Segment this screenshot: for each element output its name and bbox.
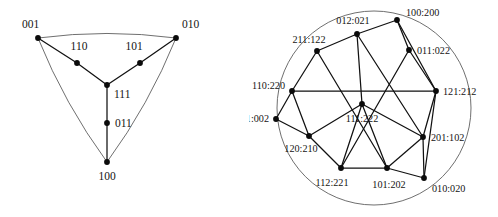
graph-edges — [38, 38, 176, 162]
node-label: 012:021 — [336, 15, 369, 26]
graph-edge — [357, 34, 362, 104]
graph-vertex[interactable] — [338, 165, 344, 171]
node-label: 110 — [71, 40, 88, 52]
node-label: 100:200 — [406, 7, 439, 18]
node-label: 110:220 — [252, 80, 285, 91]
graph-vertex[interactable] — [104, 159, 110, 165]
node-label: 010:020 — [432, 183, 465, 194]
panel-binary-triangle-graph: 001010110101111011100 — [0, 0, 249, 217]
graph-edge — [423, 91, 436, 137]
graph-edge — [387, 137, 423, 168]
graph-edge — [77, 63, 107, 85]
node-label: 011 — [115, 117, 132, 129]
node-label: 001:002 — [249, 113, 269, 124]
graph-vertex[interactable] — [433, 88, 439, 94]
node-label: 100 — [98, 170, 116, 182]
graph-vertex[interactable] — [421, 175, 427, 181]
node-label: 101:202 — [372, 179, 405, 190]
node-label: 201:102 — [431, 132, 464, 143]
node-label: 121:212 — [443, 86, 476, 97]
graph-vertex[interactable] — [394, 17, 400, 23]
node-label: 011:022 — [417, 45, 450, 56]
panel-ternary-wheel-graph: 100:200012:021211:122011:022110:220121:2… — [249, 0, 498, 217]
node-label: 211:122 — [292, 34, 325, 45]
ternary-wheel-graph-svg: 100:200012:021211:122011:022110:220121:2… — [249, 0, 498, 217]
graph-edge — [409, 50, 436, 91]
node-label: 101 — [125, 40, 143, 52]
binary-triangle-graph-svg: 001010110101111011100 — [0, 0, 249, 217]
node-label: 001 — [22, 18, 40, 30]
boundary-arc-0 — [38, 33, 176, 38]
graph-edge — [387, 168, 424, 178]
graph-vertex[interactable] — [104, 120, 110, 126]
graph-vertex[interactable] — [104, 82, 110, 88]
graph-vertex[interactable] — [74, 60, 80, 66]
graph-vertex[interactable] — [35, 35, 41, 41]
node-label: 111:222 — [346, 113, 379, 124]
graph-vertex[interactable] — [359, 101, 365, 107]
node-label: 120:210 — [284, 143, 317, 154]
graph-vertex[interactable] — [384, 165, 390, 171]
graph-vertex[interactable] — [420, 134, 426, 140]
node-label: 010 — [182, 18, 200, 30]
figure-container: 001010110101111011100 100:200012:021211:… — [0, 0, 498, 217]
graph-vertex[interactable] — [406, 47, 412, 53]
graph-node-labels: 100:200012:021211:122011:022110:220121:2… — [249, 7, 476, 194]
graph-vertex[interactable] — [173, 35, 179, 41]
graph-edge — [276, 91, 292, 119]
graph-edge — [107, 63, 140, 85]
graph-edge — [423, 137, 424, 178]
graph-vertex[interactable] — [314, 48, 320, 54]
node-label: 111 — [114, 88, 131, 100]
graph-vertex[interactable] — [137, 60, 143, 66]
graph-edge — [292, 51, 317, 91]
graph-vertex[interactable] — [306, 133, 312, 139]
graph-vertex[interactable] — [289, 88, 295, 94]
graph-vertex[interactable] — [273, 116, 279, 122]
boundary-arc-1 — [107, 38, 176, 162]
boundary-arc-2 — [38, 38, 107, 162]
node-label: 112:221 — [315, 177, 348, 188]
graph-vertex[interactable] — [354, 31, 360, 37]
